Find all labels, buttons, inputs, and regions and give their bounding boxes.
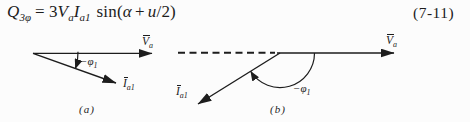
angle-sub-b: 1: [307, 88, 311, 97]
ia1-label-base-a: I: [123, 78, 127, 90]
va-label-sub-a: a: [149, 41, 153, 50]
phase-angle-label-b: −φ1: [293, 83, 311, 94]
ia1-vector-label-a: Ia1: [123, 78, 135, 90]
va-vector-label-a: Va: [142, 36, 153, 48]
phase-angle-label-a: −φ1: [80, 56, 98, 67]
angle-sub-a: 1: [94, 61, 98, 70]
va-vector-label-b: Va: [386, 35, 397, 47]
phase-angle-arc-a: [75, 52, 78, 69]
caption-a: (a): [79, 104, 95, 115]
phasor-diagrams-figure: [0, 0, 470, 122]
ia1-vector-a: [33, 53, 116, 83]
ia1-label-sub-a: a1: [127, 83, 135, 92]
phasor-diagram-b: [178, 53, 394, 104]
ia1-label-base-b: I: [176, 86, 180, 98]
ia1-vector-b: [198, 53, 280, 104]
textbook-page-snippet: Q3φ=3VaIa1sin(α+u/2) (7-11) Va Ia1 −φ1: [0, 0, 470, 122]
va-label-base-b: V: [386, 35, 393, 47]
ia1-label-sub-b: a1: [180, 91, 188, 100]
va-label-sub-b: a: [393, 40, 397, 49]
va-label-base-a: V: [142, 36, 149, 48]
caption-b: (b): [270, 104, 286, 115]
ia1-vector-label-b: Ia1: [176, 86, 188, 98]
